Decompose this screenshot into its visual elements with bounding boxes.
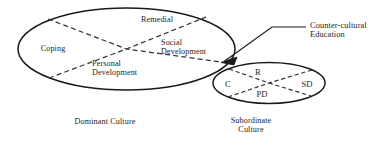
dominant-quadrant-left-label: Coping	[41, 44, 66, 53]
dominant-quadrant-top-label: Remedial	[141, 15, 173, 24]
subordinate-quadrant-right-label: SD	[301, 80, 312, 90]
dominant-quadrant-right-label: Social Development	[161, 38, 206, 56]
dominant-quadrant-bottom-label: Personal Development	[92, 59, 137, 77]
subordinate-quadrant-bottom-label: PD	[256, 90, 267, 100]
diagram-canvas: Remedial Coping Social Development Perso…	[0, 0, 385, 147]
counter-cultural-education-label: Counter-cultural Education	[310, 21, 367, 40]
subordinate-quadrant-top-label: R	[255, 68, 261, 78]
counter-cultural-education-leader-line	[224, 27, 306, 62]
subordinate-quadrant-left-label: C	[225, 80, 231, 90]
dominant-culture-caption: Dominant Culture	[75, 117, 136, 126]
subordinate-culture-caption: Subordinate Culture	[231, 116, 272, 134]
